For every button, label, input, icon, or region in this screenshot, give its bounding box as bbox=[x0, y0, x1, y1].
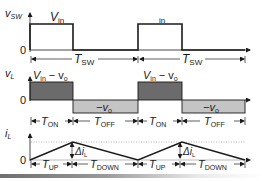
il-ripple-label: ΔiL bbox=[74, 146, 88, 158]
vl-ton-label: TON bbox=[149, 115, 166, 128]
vl-positive-label: Vin − vo bbox=[143, 69, 178, 82]
panel-vsw: vSW 0 Vin in TSW TSW bbox=[5, 7, 250, 67]
vsw-level-label: Vin bbox=[50, 10, 64, 25]
panel-il: iL 0 ΔiL ΔiL TUP TDOWN TUP TD bbox=[5, 127, 250, 171]
vsw-waveform bbox=[30, 24, 245, 50]
il-ripple-label: ΔiL bbox=[182, 146, 196, 158]
waveform-diagram: vSW 0 Vin in TSW TSW vL 0 Vin − vo Vin −… bbox=[0, 0, 262, 181]
vl-axis-label: vL bbox=[5, 67, 15, 80]
vl-positive-region bbox=[30, 82, 73, 100]
vsw-period-label: TSW bbox=[182, 52, 203, 67]
vl-zero-label: 0 bbox=[20, 94, 26, 106]
vsw-period-label: TSW bbox=[74, 52, 95, 67]
vl-toff-label: TOFF bbox=[204, 115, 225, 128]
il-zero-label: 0 bbox=[20, 154, 26, 166]
vsw-zero-label: 0 bbox=[20, 44, 26, 56]
vl-positive-region bbox=[138, 82, 182, 100]
vsw-level-label: in bbox=[159, 16, 165, 25]
vl-toff-label: TOFF bbox=[94, 115, 115, 128]
panel-vl: vL 0 Vin − vo Vin − vo −vo −vo TON TOFF … bbox=[5, 67, 250, 128]
il-axis-label: iL bbox=[5, 127, 11, 140]
vl-positive-label: Vin − vo bbox=[33, 69, 68, 82]
vl-ton-label: TON bbox=[41, 115, 58, 128]
vsw-axis-label: vSW bbox=[5, 7, 23, 20]
bottom-divider bbox=[0, 174, 262, 178]
il-waveform bbox=[30, 142, 245, 160]
